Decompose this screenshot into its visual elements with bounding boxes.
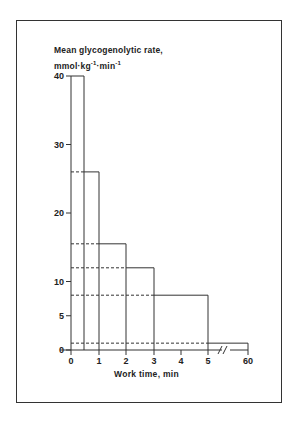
y-tick-label: 20 <box>54 208 64 218</box>
x-tick-label: 3 <box>151 356 156 366</box>
histogram-chart: 051020304001234560 <box>0 0 299 421</box>
axis-break-mark <box>223 346 227 354</box>
x-tick-label: 2 <box>123 356 128 366</box>
x-tick-label: 0 <box>68 356 73 366</box>
y-tick-label: 5 <box>59 311 64 321</box>
y-tick-label: 10 <box>54 277 64 287</box>
x-tick-label: 5 <box>205 356 210 366</box>
x-axis-label: Work time, min <box>114 369 179 379</box>
y-tick-label: 40 <box>54 71 64 81</box>
y-tick-label: 30 <box>54 140 64 150</box>
x-tick-label: 4 <box>178 356 183 366</box>
x-tick-label: 1 <box>96 356 101 366</box>
x-tick-label: 60 <box>243 356 253 366</box>
